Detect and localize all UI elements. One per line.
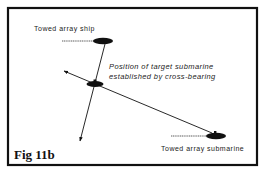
ship-label: Towed array ship xyxy=(34,25,95,33)
target-label-line2: established by cross-bearing xyxy=(109,72,216,81)
ship-icon xyxy=(93,38,113,45)
figure-label: Fig 11b xyxy=(14,147,55,162)
submarine-label: Towed array submarine xyxy=(161,145,244,153)
cross-bearing-diagram: Towed array ship Position of target subm… xyxy=(0,0,264,173)
target-label-line1: Position of target submarine xyxy=(109,62,214,71)
